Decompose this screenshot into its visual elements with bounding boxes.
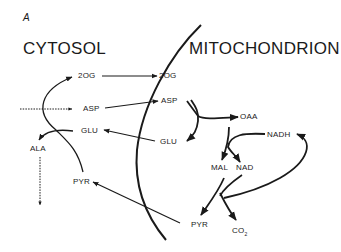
arrow-2og-to-glu (187, 100, 198, 141)
cytosol-asp-label: ASP (83, 105, 100, 113)
arrow-oaa-to-mal (222, 127, 229, 160)
arrow-nadh-to-nad (228, 134, 265, 162)
arrow-mal-to-pyr (201, 178, 224, 215)
cytosol-ala-label: ALA (30, 145, 46, 153)
cytosol-pyr-label: PYR (73, 178, 90, 186)
mito-nad-label: NAD (236, 164, 254, 172)
mito-oaa-label: OAA (240, 113, 258, 121)
co2-text: CO (232, 226, 244, 235)
panel-label: A (23, 12, 30, 23)
mito-asp-label: ASP (161, 97, 178, 105)
cytosol-2og-label: 2OG (78, 72, 96, 80)
cytosol-title: CYTOSOL (23, 40, 106, 57)
pathway-diagram (0, 0, 341, 252)
mito-pyr-label: PYR (191, 221, 208, 229)
mito-2og-label: 2OG (159, 72, 177, 80)
co2-subscript: 2 (244, 231, 247, 237)
cytosol-glu-label: GLU (81, 127, 98, 135)
arrow-pyr-transport (93, 182, 180, 223)
mitochondrion-title: MITOCHONDRION (189, 40, 340, 57)
arrow-asp-transport (105, 101, 158, 108)
arrow-glu-transport (104, 130, 155, 141)
mito-nadh-label: NADH (267, 131, 290, 139)
arrow-glu-to-ala (39, 130, 73, 140)
mito-glu-label: GLU (160, 138, 177, 146)
mito-mal-label: MAL (211, 164, 228, 172)
mito-co2-label: CO2 (232, 227, 247, 238)
arrow-asp-to-oaa (187, 101, 238, 118)
arrow-transamination-to-2og (43, 77, 83, 172)
